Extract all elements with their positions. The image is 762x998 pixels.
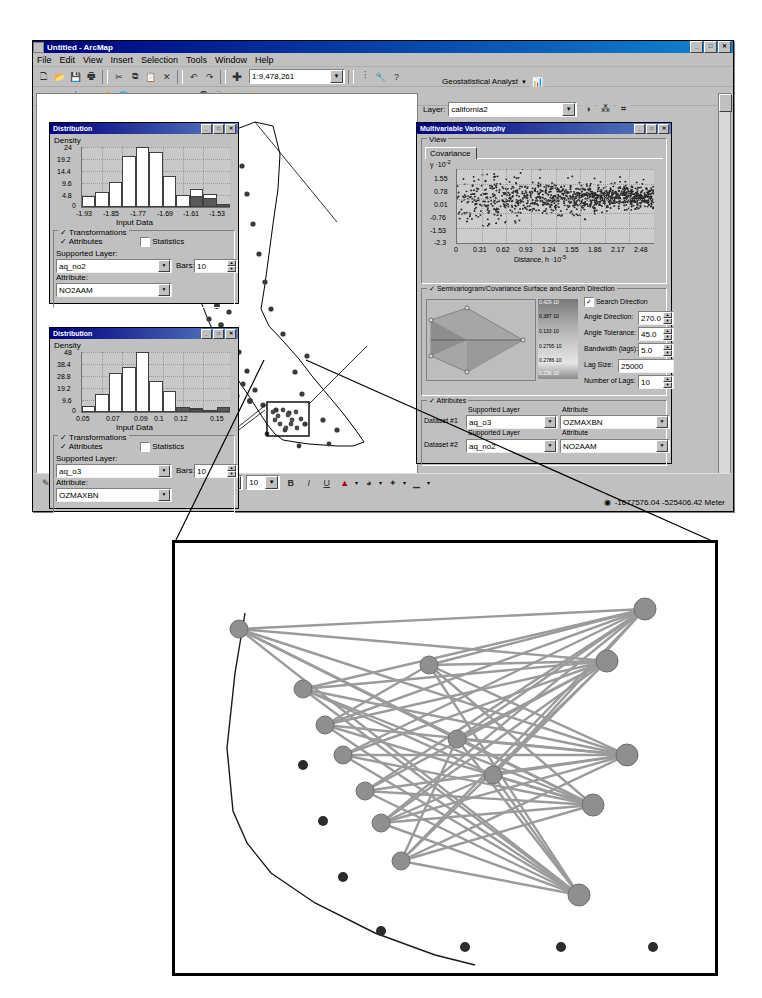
menu-item-insert[interactable]: Insert bbox=[110, 55, 133, 65]
statistics-label[interactable]: Statistics bbox=[152, 237, 184, 246]
chevron-down-icon[interactable]: ▼ bbox=[656, 440, 668, 452]
chevron-down-icon[interactable]: ▼ bbox=[158, 284, 170, 296]
chevron-down-icon[interactable]: ▾ bbox=[379, 479, 382, 486]
supported-layer-combo[interactable]: aq_o3 ▼ bbox=[56, 464, 172, 478]
paste-icon[interactable]: 📋 bbox=[143, 69, 158, 84]
minimize-button[interactable]: _ bbox=[634, 124, 645, 134]
spinner-buttons[interactable]: ▲▼ bbox=[663, 312, 672, 323]
expand-arrow-icon[interactable]: ✓ bbox=[429, 397, 435, 404]
italic-button[interactable]: I bbox=[301, 475, 316, 490]
close-button[interactable]: ✕ bbox=[225, 124, 236, 134]
line-color-icon[interactable]: ◕ bbox=[361, 475, 376, 490]
delete-icon[interactable]: ✕ bbox=[159, 69, 174, 84]
angle-direction-input[interactable]: 270.0 ▲▼ bbox=[638, 311, 674, 325]
dataset1-layer-combo[interactable]: aq_o3 ▼ bbox=[466, 415, 558, 429]
menu-item-help[interactable]: Help bbox=[255, 55, 274, 65]
explore-data-icon[interactable]: ⁂ bbox=[598, 102, 613, 117]
statistics-label[interactable]: Statistics bbox=[152, 442, 184, 451]
menu-item-tools[interactable]: Tools bbox=[186, 55, 207, 65]
menu-item-window[interactable]: Window bbox=[215, 55, 247, 65]
bars-spinner[interactable]: 10 ▲▼ bbox=[194, 259, 238, 273]
expand-arrow-icon[interactable]: ✓ bbox=[60, 228, 67, 237]
font-size-combo[interactable]: 10 ▼ bbox=[246, 475, 280, 490]
attribute-combo[interactable]: NO2AAM ▼ bbox=[56, 283, 172, 297]
close-button[interactable]: ✕ bbox=[658, 124, 669, 134]
map-scale-combo[interactable]: 1:9,478,261 ▼ bbox=[249, 69, 345, 84]
expand-arrow-icon[interactable]: ✓ bbox=[60, 237, 67, 246]
chevron-down-icon[interactable]: ▼ bbox=[265, 476, 278, 489]
chevron-down-icon[interactable]: ▾ bbox=[427, 479, 430, 486]
whats-this-icon[interactable]: ? bbox=[389, 69, 404, 84]
map-vertical-scrollbar[interactable] bbox=[718, 93, 731, 487]
chevron-down-icon[interactable]: ▼ bbox=[656, 416, 668, 428]
attributes-label[interactable]: Attributes bbox=[69, 237, 103, 246]
bandwidth-input[interactable]: 5.0 ▲▼ bbox=[638, 343, 674, 357]
half-moon-icon[interactable]: ◑ bbox=[580, 102, 595, 117]
attributes-label[interactable]: Attributes bbox=[69, 442, 103, 451]
chevron-down-icon[interactable]: ▼ bbox=[330, 70, 343, 83]
add-data-icon[interactable]: ✚ bbox=[229, 69, 244, 84]
fill-color-icon[interactable]: ▲ bbox=[337, 475, 352, 490]
editor-toolbar-icon[interactable]: ⫶ bbox=[357, 69, 372, 84]
menu-item-view[interactable]: View bbox=[83, 55, 102, 65]
spinner-buttons[interactable]: ▲▼ bbox=[227, 260, 236, 271]
covariance-plot[interactable]: γ ·10-2 1.55 0.78 0.01 -0.76 bbox=[426, 159, 662, 265]
chevron-down-icon[interactable]: ▼ bbox=[158, 465, 170, 477]
chevron-down-icon[interactable]: ▼ bbox=[158, 489, 170, 501]
search-direction-checkbox[interactable]: ✓ bbox=[584, 297, 594, 307]
maximize-button[interactable]: □ bbox=[704, 41, 717, 53]
number-of-lags-input[interactable]: 10 ▲▼ bbox=[638, 375, 674, 389]
marker-color-icon[interactable]: ✦ bbox=[385, 475, 400, 490]
transformations-label[interactable]: Transformations bbox=[69, 228, 127, 237]
supported-layer-combo[interactable]: aq_no2 ▼ bbox=[56, 259, 172, 273]
bold-button[interactable]: B bbox=[283, 475, 298, 490]
angle-tolerance-input[interactable]: 45.0 ▲▼ bbox=[638, 327, 674, 341]
close-button[interactable]: ✕ bbox=[718, 41, 731, 53]
undo-icon[interactable]: ↶ bbox=[186, 69, 201, 84]
chevron-down-icon[interactable]: ▼ bbox=[158, 260, 170, 272]
minimize-button[interactable]: _ bbox=[201, 329, 212, 339]
geostat-wizard2-icon[interactable]: ⌗ bbox=[616, 102, 631, 117]
bars-spinner[interactable]: 10 ▲▼ bbox=[194, 464, 238, 478]
expand-arrow-icon[interactable]: ✓ bbox=[60, 433, 67, 442]
font-color-icon[interactable]: ▁ bbox=[409, 475, 424, 490]
maximize-button[interactable]: □ bbox=[213, 124, 224, 134]
chevron-down-icon[interactable]: ▼ bbox=[544, 440, 556, 452]
tab-covariance[interactable]: Covariance bbox=[425, 147, 477, 159]
statistics-checkbox[interactable] bbox=[140, 442, 150, 452]
layer-combo[interactable]: california2 ▼ bbox=[448, 102, 577, 117]
toolbox-icon[interactable]: 🔧 bbox=[373, 69, 388, 84]
close-button[interactable]: ✕ bbox=[225, 329, 236, 339]
chevron-down-icon[interactable]: ▼ bbox=[544, 416, 556, 428]
chevron-down-icon[interactable]: ▾ bbox=[355, 479, 358, 486]
geostat-wizard-icon[interactable]: 📊 bbox=[530, 74, 545, 89]
save-icon[interactable]: 💾 bbox=[68, 69, 83, 84]
minimize-button[interactable]: _ bbox=[690, 41, 703, 53]
spinner-buttons[interactable]: ▲▼ bbox=[663, 328, 672, 339]
dataset2-attribute-combo[interactable]: NO2AAM ▼ bbox=[560, 439, 670, 453]
transformations-label[interactable]: Transformations bbox=[69, 433, 127, 442]
dataset1-attribute-combo[interactable]: OZMAXBN ▼ bbox=[560, 415, 670, 429]
redo-icon[interactable]: ↷ bbox=[202, 69, 217, 84]
chevron-down-icon[interactable]: ▼ bbox=[562, 103, 575, 116]
expand-arrow-icon[interactable]: ✓ bbox=[60, 442, 67, 451]
chevron-down-icon[interactable]: ▼ bbox=[521, 79, 527, 85]
expand-arrow-icon[interactable]: ✓ bbox=[429, 285, 435, 292]
new-document-icon[interactable]: 🗋 bbox=[36, 69, 51, 84]
statistics-checkbox[interactable] bbox=[140, 237, 150, 247]
chevron-down-icon[interactable]: ▾ bbox=[403, 479, 406, 486]
spinner-buttons[interactable]: ▲▼ bbox=[227, 465, 236, 476]
cut-icon[interactable]: ✂ bbox=[111, 69, 126, 84]
underline-button[interactable]: U bbox=[319, 475, 334, 490]
maximize-button[interactable]: □ bbox=[646, 124, 657, 134]
spinner-buttons[interactable]: ▲▼ bbox=[663, 376, 672, 387]
attribute-combo[interactable]: OZMAXBN ▼ bbox=[56, 488, 172, 502]
minimize-button[interactable]: _ bbox=[201, 124, 212, 134]
lag-size-input[interactable]: 25000 bbox=[618, 359, 674, 373]
print-icon[interactable]: 🖶 bbox=[84, 69, 99, 84]
menu-item-selection[interactable]: Selection bbox=[141, 55, 178, 65]
scrollbar-thumb[interactable] bbox=[719, 94, 732, 112]
semivariogram-surface[interactable] bbox=[426, 299, 536, 381]
menu-item-edit[interactable]: Edit bbox=[60, 55, 76, 65]
menu-item-file[interactable]: File bbox=[37, 55, 52, 65]
